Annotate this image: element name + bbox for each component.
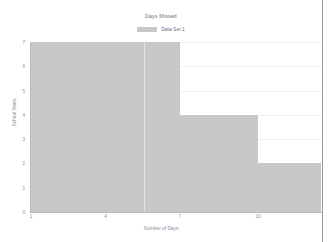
y-tick-label: 0	[3, 210, 25, 215]
y-axis-title: School Years	[12, 83, 17, 143]
y-axis-line	[30, 42, 31, 213]
chart-legend: Data Set 1	[0, 26, 322, 32]
y-tick-label: 2	[3, 161, 25, 166]
plot-area	[31, 42, 321, 212]
legend-label-data-set-1: Data Set 1	[161, 26, 185, 32]
x-axis-title: Number of Days	[0, 226, 322, 231]
bar-separator	[144, 42, 145, 212]
x-tick-label: 10	[255, 214, 260, 219]
chart-title: Days Missed	[0, 13, 322, 19]
window-right-border	[322, 0, 323, 242]
x-tick-label: 7	[179, 214, 182, 219]
x-tick-label: 1	[30, 214, 33, 219]
bar-segment[interactable]	[258, 163, 321, 212]
x-axis-tick-labels: 1 4 7 10	[31, 214, 321, 224]
chart-window: Days Missed Data Set 1 0 1 2 3 4 5 6 7 1…	[0, 0, 332, 242]
y-tick-label: 7	[3, 40, 25, 45]
x-tick-label: 4	[104, 214, 107, 219]
y-tick-label: 6	[3, 64, 25, 69]
legend-swatch-data-set-1	[137, 27, 157, 32]
bar-segment[interactable]	[180, 115, 258, 212]
y-tick-label: 1	[3, 185, 25, 190]
bar-segment[interactable]	[31, 42, 180, 212]
x-axis-line	[30, 212, 322, 213]
